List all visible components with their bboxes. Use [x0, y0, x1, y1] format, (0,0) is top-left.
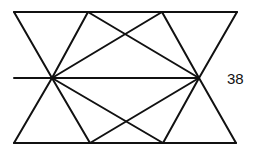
geometric-figure — [0, 0, 259, 158]
diagram-canvas: 38 — [0, 0, 259, 158]
right-lower-outer — [199, 78, 236, 143]
right-to-top-inner-left — [88, 12, 199, 78]
figure-number-label: 38 — [227, 71, 244, 86]
left-lower-outer — [14, 78, 52, 143]
right-upper-outer — [199, 12, 237, 78]
left-to-top-inner-right — [52, 12, 162, 78]
line-segments — [14, 12, 237, 143]
left-to-bottom-inner-left — [52, 78, 90, 143]
left-upper-outer — [14, 12, 52, 78]
